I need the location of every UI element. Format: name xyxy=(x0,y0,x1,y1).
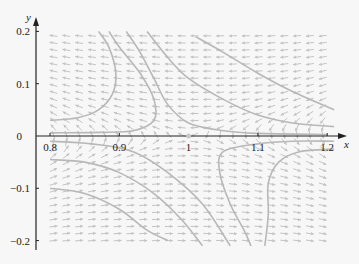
trajectory-curve xyxy=(50,31,156,132)
x-tick-label: 1.1 xyxy=(251,141,265,153)
x-axis-label: x xyxy=(343,138,349,150)
trajectory-curve xyxy=(196,37,335,110)
y-tick-label: 0.2 xyxy=(16,25,30,37)
x-tick-label: 1 xyxy=(186,141,192,153)
y-tick-label: 0.1 xyxy=(16,78,30,90)
phase-portrait: xy 0.80.911.11.20.20.10−0.1−0.2 xyxy=(0,0,359,264)
y-axis-label: y xyxy=(25,11,31,23)
x-tick-label: 0.9 xyxy=(112,141,126,153)
y-axis-arrow-icon xyxy=(33,17,39,26)
y-tick-label: 0 xyxy=(17,130,23,142)
y-tick-label: −0.2 xyxy=(10,235,30,247)
trajectory-curve xyxy=(50,160,202,246)
trajectory-curve xyxy=(126,31,327,134)
axes: xy xyxy=(25,11,349,250)
x-tick-label: 1.2 xyxy=(320,141,334,153)
equilibrium-point xyxy=(186,134,191,139)
y-tick-label: −0.1 xyxy=(10,182,30,194)
x-tick-label: 0.8 xyxy=(43,141,57,153)
